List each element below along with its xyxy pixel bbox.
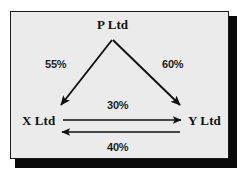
node-label-y-ltd: Y Ltd xyxy=(188,113,221,129)
node-label-x-ltd: X Ltd xyxy=(22,113,55,129)
edge-label-x-to-y: 30% xyxy=(107,99,128,111)
edge-label-y-to-x: 40% xyxy=(107,141,128,153)
edge-label-p-to-y: 60% xyxy=(162,58,183,70)
node-label-p-ltd: P Ltd xyxy=(97,17,128,33)
diagram-canvas: P Ltd X Ltd Y Ltd 55% 60% 30% 40% xyxy=(0,0,243,173)
arrow-p-to-x xyxy=(61,40,112,105)
edge-label-p-to-x: 55% xyxy=(45,58,66,70)
arrow-p-to-y xyxy=(113,40,180,105)
